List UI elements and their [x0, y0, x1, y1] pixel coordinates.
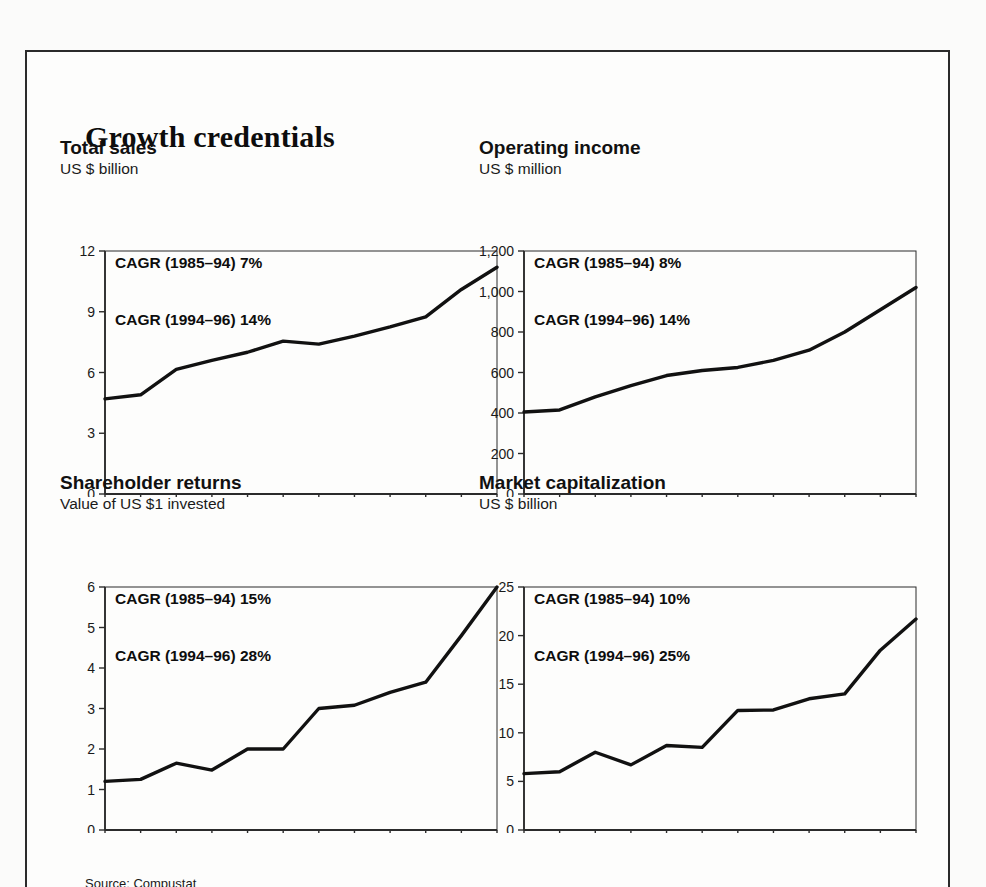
cagr-line-2: CAGR (1994–96) 14%	[534, 310, 690, 329]
svg-text:200: 200	[491, 446, 515, 462]
svg-text:6: 6	[87, 579, 95, 595]
svg-text:4: 4	[87, 660, 95, 676]
svg-text:1,200: 1,200	[479, 243, 514, 259]
panel-total-sales: Total sales US $ billion	[60, 137, 157, 178]
panel-operating-income: Operating income US $ million	[479, 137, 641, 178]
cagr-line-1: CAGR (1985–94) 10%	[534, 589, 690, 608]
svg-text:9: 9	[87, 304, 95, 320]
svg-text:800: 800	[491, 324, 515, 340]
svg-text:1: 1	[87, 782, 95, 798]
cagr-line-2: CAGR (1994–96) 28%	[115, 646, 271, 665]
svg-text:12: 12	[79, 243, 95, 259]
svg-text:6: 6	[87, 365, 95, 381]
svg-text:10: 10	[498, 725, 514, 741]
panel-shareholder-returns: Shareholder returns Value of US $1 inves…	[60, 472, 242, 513]
panel-title: Market capitalization	[479, 472, 666, 494]
cagr-annotation-market-capitalization: CAGR (1985–94) 10% CAGR (1994–96) 25%	[534, 551, 690, 703]
svg-text:3: 3	[87, 425, 95, 441]
panel-subtitle: US $ billion	[479, 494, 666, 513]
svg-text:25: 25	[498, 579, 514, 595]
svg-text:20: 20	[498, 628, 514, 644]
cagr-line-1: CAGR (1985–94) 15%	[115, 589, 271, 608]
panel-market-capitalization: Market capitalization US $ billion	[479, 472, 666, 513]
svg-text:400: 400	[491, 405, 515, 421]
panel-title: Operating income	[479, 137, 641, 159]
cagr-line-2: CAGR (1994–96) 25%	[534, 646, 690, 665]
svg-text:15: 15	[498, 676, 514, 692]
svg-text:600: 600	[491, 365, 515, 381]
panel-subtitle: US $ billion	[60, 159, 157, 178]
svg-text:1,000: 1,000	[479, 284, 514, 300]
cagr-line-2: CAGR (1994–96) 14%	[115, 310, 271, 329]
cagr-line-1: CAGR (1985–94) 7%	[115, 253, 271, 272]
svg-text:5: 5	[506, 773, 514, 789]
panel-title: Total sales	[60, 137, 157, 159]
page-background: Growth credentials Total sales US $ bill…	[0, 0, 986, 887]
cagr-annotation-operating-income: CAGR (1985–94) 8% CAGR (1994–96) 14%	[534, 215, 690, 367]
panel-title: Shareholder returns	[60, 472, 242, 494]
svg-text:3: 3	[87, 701, 95, 717]
svg-text:0: 0	[87, 822, 95, 833]
panel-subtitle: US $ million	[479, 159, 641, 178]
cagr-line-1: CAGR (1985–94) 8%	[534, 253, 690, 272]
svg-text:0: 0	[506, 822, 514, 833]
svg-text:5: 5	[87, 620, 95, 636]
cagr-annotation-shareholder-returns: CAGR (1985–94) 15% CAGR (1994–96) 28%	[115, 551, 271, 703]
cagr-annotation-total-sales: CAGR (1985–94) 7% CAGR (1994–96) 14%	[115, 215, 271, 367]
svg-text:2: 2	[87, 741, 95, 757]
source-note: Source: Compustat	[85, 876, 196, 887]
exhibit-frame: Growth credentials Total sales US $ bill…	[25, 50, 950, 887]
panel-subtitle: Value of US $1 invested	[60, 494, 242, 513]
